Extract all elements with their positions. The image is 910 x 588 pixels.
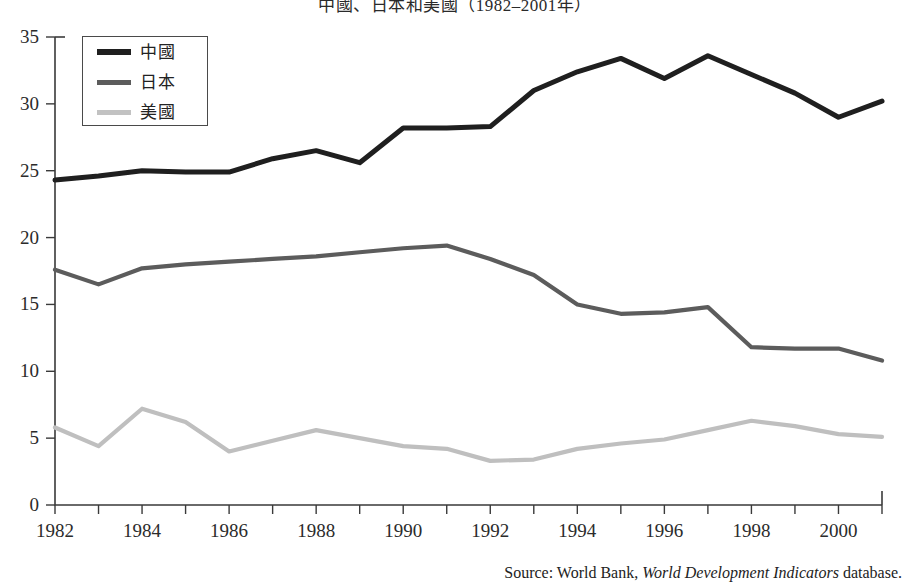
series-line-1 [55, 246, 882, 361]
y-tick-label-10: 10 [20, 360, 39, 381]
source-prefix: Source: World Bank, [504, 564, 642, 581]
y-tick-label-20: 20 [20, 227, 39, 248]
x-tick-label-1986: 1986 [210, 520, 248, 541]
legend-label-japan: 日本 [140, 74, 176, 91]
legend-swatch-japan [97, 80, 131, 85]
y-tick-label-0: 0 [30, 494, 40, 515]
legend-item-japan[interactable]: 日本 [83, 67, 207, 97]
y-tick-label-30: 30 [20, 93, 39, 114]
chart-legend: 中國 日本 美國 [82, 36, 208, 126]
legend-label-china: 中國 [140, 44, 176, 61]
legend-label-usa: 美國 [140, 104, 176, 121]
source-italic-title: World Development Indicators [642, 564, 839, 581]
y-tick-label-35: 35 [20, 26, 39, 47]
legend-swatch-usa [97, 110, 131, 115]
y-axis-tick-labels: 05101520253035 [20, 26, 39, 515]
legend-swatch-china [97, 49, 131, 55]
legend-item-china[interactable]: 中國 [83, 37, 207, 67]
x-tick-label-1990: 1990 [384, 520, 422, 541]
y-tick-label-15: 15 [20, 293, 39, 314]
x-tick-label-1998: 1998 [732, 520, 770, 541]
chart-figure: 中國、日本和美國（1982–2001年） 05101520253035 1982… [0, 0, 910, 588]
series-line-2 [55, 409, 882, 461]
x-tick-label-1994: 1994 [558, 520, 597, 541]
x-tick-label-1982: 1982 [36, 520, 74, 541]
source-note: Source: World Bank, World Development In… [504, 564, 902, 582]
source-suffix: database. [839, 564, 902, 581]
x-tick-label-1996: 1996 [645, 520, 683, 541]
x-axis-tick-labels: 1982198419861988199019921994199619982000 [36, 520, 857, 541]
y-tick-label-25: 25 [20, 160, 39, 181]
legend-item-usa[interactable]: 美國 [83, 97, 207, 127]
x-tick-label-1988: 1988 [297, 520, 335, 541]
x-tick-label-1984: 1984 [123, 520, 162, 541]
y-tick-label-5: 5 [30, 427, 40, 448]
x-tick-label-1992: 1992 [471, 520, 509, 541]
x-tick-label-2000: 2000 [819, 520, 857, 541]
